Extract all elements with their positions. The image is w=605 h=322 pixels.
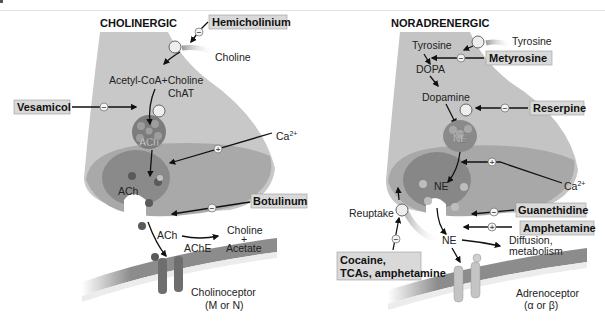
neurotransmission-diagram: CHOLINERGIC ACh Choline H: [0, 0, 605, 322]
ach-molecule: [145, 199, 153, 207]
cocaine-label: Cocaine,: [340, 254, 386, 266]
svg-text:−: −: [394, 235, 399, 244]
noradrenergic-title: NORADRENERGIC: [391, 17, 489, 29]
vesamicol-label: Vesamicol: [17, 101, 71, 113]
noradrenergic-panel: NORADRENERGIC Tyrosine Tyrosine Metyrosi…: [337, 17, 596, 311]
svg-text:−: −: [503, 104, 508, 113]
ne-vesicle: NE: [443, 120, 477, 152]
cleft-ach-label: ACh: [157, 229, 178, 241]
reuptake-transporter-icon: [396, 204, 408, 216]
diffusion-arrow: [462, 240, 500, 246]
chat-label: ChAT: [168, 87, 195, 99]
vmat-transporter-icon: [460, 104, 472, 116]
cleft-ne-label: NE: [442, 234, 457, 246]
vesicle-ne-label: NE: [453, 133, 467, 144]
metabolism-label: metabolism: [509, 245, 563, 257]
ne-molecule: [451, 203, 459, 211]
cholinoceptor-label: Cholinoceptor: [191, 286, 256, 298]
tyrosine-transporter-icon: [472, 36, 484, 48]
calcium-label: Ca2+: [276, 130, 297, 142]
calcium-label: Ca2+: [564, 180, 585, 192]
vesicular-transporter-icon: [153, 105, 165, 117]
ache-hydrolysis-arrow: [182, 236, 218, 238]
ache-label: AChE: [184, 242, 211, 254]
svg-text:−: −: [492, 208, 497, 217]
svg-text:−: −: [102, 103, 107, 112]
metyrosine-label: Metyrosine: [489, 52, 547, 64]
tyrosine-in-label: Tyrosine: [512, 35, 552, 47]
guanethidine-label: Guanethidine: [518, 204, 588, 216]
cholinergic-panel: CHOLINERGIC ACh Choline H: [14, 15, 308, 311]
synthesis-label: Acetyl-CoA+Choline: [109, 74, 203, 86]
reserpine-label: Reserpine: [533, 102, 586, 114]
reuptake-band: [406, 212, 440, 240]
acetate-product-label: Acetate: [226, 242, 262, 254]
bouton-ne-label: NE: [434, 180, 449, 192]
dopa-label: DOPA: [416, 63, 445, 75]
ne-molecule: [424, 197, 432, 205]
hemicholinium-label: Hemicholinium: [212, 16, 291, 28]
choline-uptake-band: [182, 48, 214, 53]
svg-text:−: −: [459, 54, 464, 63]
ne-to-receptor-arrow: [452, 248, 460, 262]
vesicle-ach-label: ACh: [139, 137, 158, 148]
ne-molecule: [419, 180, 427, 188]
svg-text:−: −: [197, 28, 202, 37]
ach-vesicle: ACh: [132, 115, 166, 149]
svg-text:−: −: [210, 204, 215, 213]
tyrosine-label: Tyrosine: [412, 39, 452, 51]
cholinergic-title: CHOLINERGIC: [100, 17, 177, 29]
choline-in-label: Choline: [215, 51, 251, 63]
reuptake-label: Reuptake: [349, 207, 394, 219]
svg-text:+: +: [216, 145, 221, 154]
cholinoceptor-type-label: (M or N): [205, 299, 244, 311]
bouton-ach-label: ACh: [118, 185, 139, 197]
tyrosine-uptake-band: [486, 42, 512, 46]
choline-transporter-icon: [169, 41, 181, 53]
cocaine-arrow: [393, 218, 399, 250]
svg-text:+: +: [490, 223, 495, 232]
amphetamine-label: Amphetamine: [523, 222, 596, 234]
svg-text:+: +: [490, 158, 495, 167]
ach-molecule: [128, 172, 136, 180]
ne-molecule: [460, 183, 468, 191]
tcas-amphetamine-label: TCAs, amphetamine: [340, 267, 446, 279]
botulinum-label: Botulinum: [253, 195, 308, 207]
adrenoceptor-type-label: (α or β): [524, 299, 558, 311]
adrenoceptor-label: Adrenoceptor: [516, 287, 580, 299]
dopamine-label: Dopamine: [422, 91, 470, 103]
ach-molecule: [157, 175, 163, 181]
ach-molecule: [138, 222, 146, 230]
